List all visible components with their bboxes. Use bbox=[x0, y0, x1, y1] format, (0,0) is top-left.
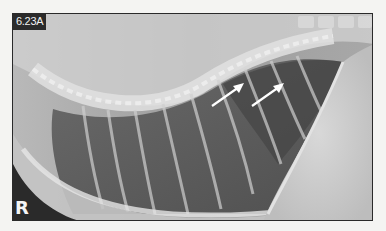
radiograph-figure: 6.23A R bbox=[12, 13, 373, 221]
side-marker: R bbox=[15, 199, 29, 217]
figure-label: 6.23A bbox=[13, 14, 46, 30]
radiograph-image bbox=[13, 14, 373, 221]
